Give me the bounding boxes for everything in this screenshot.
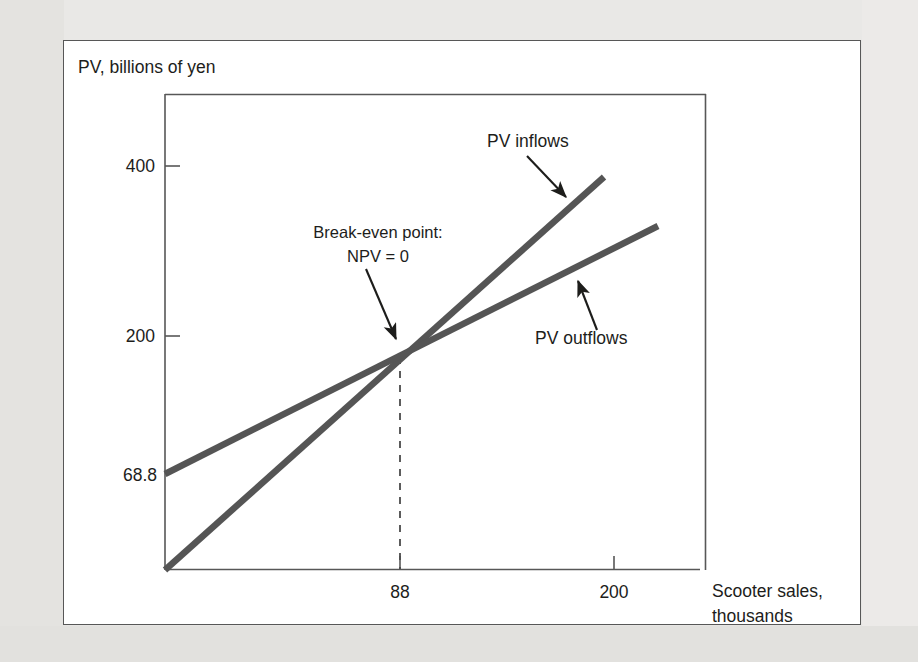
y-axis-ticks: 400 200 68.8 <box>123 156 180 485</box>
y-tick-label-200: 200 <box>126 326 155 346</box>
x-axis-ticks: 88 200 <box>390 556 629 602</box>
break-even-chart: PV, billions of yen 400 200 68.8 88 <box>0 0 918 662</box>
series-line-pv-outflows <box>165 226 658 474</box>
y-tick-label-68-8: 68.8 <box>123 465 157 485</box>
series-label-pv-inflows: PV inflows <box>487 131 569 151</box>
break-even-arrow <box>366 269 396 339</box>
pv-outflows-arrow <box>578 281 597 330</box>
x-tick-label-200: 200 <box>599 582 628 602</box>
figure-root: PV, billions of yen 400 200 68.8 88 <box>0 0 918 662</box>
series-label-pv-outflows: PV outflows <box>535 328 628 348</box>
y-axis-title: PV, billions of yen <box>78 57 216 77</box>
x-tick-label-88: 88 <box>390 582 409 602</box>
break-even-annotation-line2: NPV = 0 <box>347 247 409 265</box>
pv-inflows-arrow <box>527 156 566 197</box>
break-even-annotation-line1: Break-even point: <box>313 223 442 241</box>
x-axis-title-line2: thousands <box>712 606 793 626</box>
x-axis-title-line1: Scooter sales, <box>712 581 823 601</box>
y-tick-label-400: 400 <box>126 156 155 176</box>
